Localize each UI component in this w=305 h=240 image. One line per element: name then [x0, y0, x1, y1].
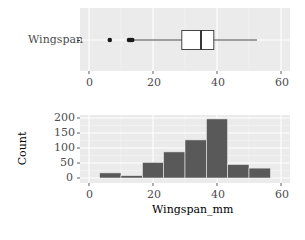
outlier-point: [108, 38, 113, 43]
histogram-bar: [206, 119, 227, 178]
hist-y-tick-200: 200: [54, 111, 75, 124]
hist-x-tick-40: 40: [211, 188, 225, 201]
hist-x-tick-20: 20: [147, 188, 161, 201]
histogram-bar: [164, 152, 185, 178]
outlier-point: [130, 38, 135, 43]
hist-y-tick-100: 100: [54, 141, 75, 154]
box-iqr: [182, 31, 214, 50]
hist-x-axis-title: Wingspan_mm: [152, 203, 233, 216]
hist-y-axis-title: Count: [16, 132, 29, 166]
boxplot-x-tick-60: 60: [275, 76, 289, 89]
histogram-bar: [100, 173, 121, 178]
hist-x-tick-0: 0: [86, 188, 93, 201]
boxplot-x-tick-40: 40: [211, 76, 225, 89]
histogram-bar: [228, 165, 249, 179]
hist-y-tick-50: 50: [60, 156, 74, 169]
histogram-bar: [142, 162, 163, 178]
boxplot-x-tick-20: 20: [147, 76, 161, 89]
boxplot-x-tick-0: 0: [86, 76, 93, 89]
histogram-bar: [249, 168, 270, 178]
hist-y-tick-0: 0: [66, 171, 73, 184]
histogram-bar: [121, 176, 142, 178]
histogram-bar: [185, 140, 206, 178]
hist-x-tick-60: 60: [275, 188, 289, 201]
hist-y-tick-150: 150: [54, 126, 75, 139]
